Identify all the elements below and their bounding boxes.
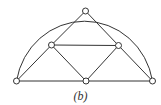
outer-arc	[17, 21, 153, 81]
figure-caption: (b)	[0, 89, 161, 103]
graph-edge	[86, 46, 119, 82]
graph-node	[150, 78, 156, 84]
arc-edge	[17, 21, 153, 81]
graph-node	[83, 8, 89, 14]
graph-edge	[52, 11, 86, 45]
graph-edge	[52, 45, 119, 46]
graph-node	[116, 43, 122, 49]
graph-node	[49, 42, 55, 48]
graph-node	[14, 78, 20, 84]
graph-nodes	[14, 8, 156, 84]
graph-node	[83, 78, 89, 84]
graph-edge	[52, 45, 87, 81]
